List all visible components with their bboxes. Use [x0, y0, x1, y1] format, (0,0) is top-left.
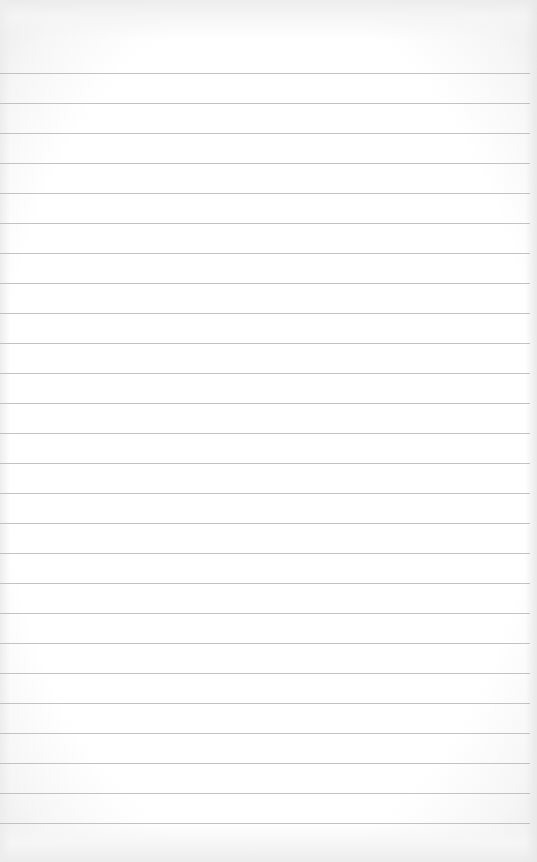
ruled-line: [0, 373, 530, 374]
ruled-line: [0, 763, 530, 764]
ruled-line: [0, 253, 530, 254]
ruled-line: [0, 433, 530, 434]
ruled-line: [0, 193, 530, 194]
ruled-line: [0, 403, 530, 404]
paper-top-edge: [0, 0, 537, 40]
ruled-line: [0, 343, 530, 344]
ruled-line: [0, 733, 530, 734]
ruled-line: [0, 223, 530, 224]
ruled-line: [0, 133, 530, 134]
ruled-line: [0, 613, 530, 614]
ruled-line: [0, 553, 530, 554]
ruled-line: [0, 823, 530, 824]
ruled-line: [0, 673, 530, 674]
ruled-line: [0, 463, 530, 464]
ruled-line: [0, 163, 530, 164]
ruled-line: [0, 523, 530, 524]
ruled-line: [0, 703, 530, 704]
ruled-line: [0, 283, 530, 284]
ruled-line: [0, 493, 530, 494]
ruled-line: [0, 583, 530, 584]
ruled-line: [0, 73, 530, 74]
ruled-line: [0, 793, 530, 794]
ruled-line: [0, 103, 530, 104]
ruled-line: [0, 313, 530, 314]
ruled-line: [0, 643, 530, 644]
lined-paper-page: [0, 0, 537, 862]
paper-bottom-edge: [0, 822, 537, 862]
